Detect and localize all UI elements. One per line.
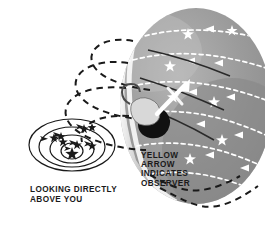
trail-rings bbox=[29, 119, 115, 171]
star-icon bbox=[87, 141, 97, 150]
zenith-caption: LOOKING DIRECTLY ABOVE YOU bbox=[30, 185, 117, 204]
observer-caption: YELLOW ARROW INDICATES OBSERVER bbox=[141, 151, 190, 188]
star-icon bbox=[57, 132, 66, 140]
star-icon bbox=[72, 140, 82, 149]
rotation-arrow-icon bbox=[64, 146, 71, 151]
astronomy-figure: YELLOW ARROW INDICATES OBSERVER LOOKING … bbox=[0, 0, 265, 231]
circumpolar-star-trails bbox=[29, 119, 115, 171]
star-icon bbox=[79, 124, 89, 133]
